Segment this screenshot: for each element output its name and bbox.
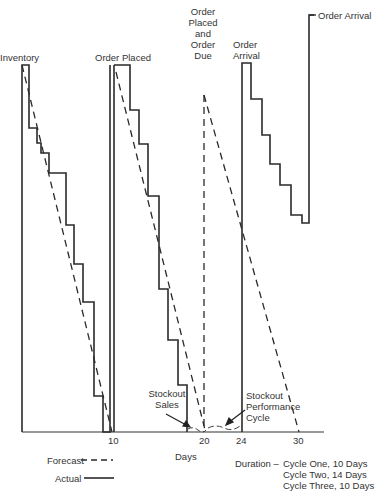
x-tick-10: 10	[108, 435, 119, 446]
label-line: Arrival	[233, 50, 260, 61]
forecast-series	[22, 65, 299, 432]
x-axis-label: Days	[175, 451, 197, 462]
x-tick-20: 20	[199, 435, 210, 446]
label-line: Order	[233, 39, 260, 50]
actual-series	[22, 15, 314, 432]
label-line: Order	[183, 39, 223, 50]
stockout-sales-curve	[188, 428, 206, 432]
label-line: Cycle	[246, 412, 300, 423]
label-order-placed-and-due: Order Placed and Order Due	[183, 6, 223, 61]
label-line: Performance	[246, 401, 300, 412]
label-order-arrival-1: Order Arrival	[233, 39, 260, 61]
label-order-placed: Order Placed	[95, 52, 151, 63]
label-stockout-performance: Stockout Performance Cycle	[246, 390, 300, 423]
label-stockout-sales: Stockout Sales	[142, 388, 192, 410]
label-line: Order	[183, 6, 223, 17]
label-line: Stockout	[142, 388, 192, 399]
label-inventory: Inventory	[0, 52, 39, 63]
label-line: Placed	[183, 17, 223, 28]
arrow-icon	[166, 410, 245, 427]
x-tick-30: 30	[293, 435, 304, 446]
duration-title: Duration –	[235, 458, 279, 469]
x-tick-24: 24	[236, 435, 247, 446]
duration-cycle-two: Cycle Two, 14 Days	[283, 469, 367, 480]
duration-cycle-three: Cycle Three, 10 Days	[283, 480, 374, 491]
label-line: Stockout	[246, 390, 300, 401]
stockout-performance-curve	[208, 426, 240, 430]
label-line: and	[183, 28, 223, 39]
label-line: Sales	[142, 399, 192, 410]
legend-forecast-label: Forecast	[47, 455, 84, 466]
label-order-arrival-2: Order Arrival	[318, 10, 371, 21]
duration-cycle-one: Cycle One, 10 Days	[283, 458, 367, 469]
legend-actual-label: Actual	[55, 473, 81, 484]
label-line: Due	[183, 50, 223, 61]
